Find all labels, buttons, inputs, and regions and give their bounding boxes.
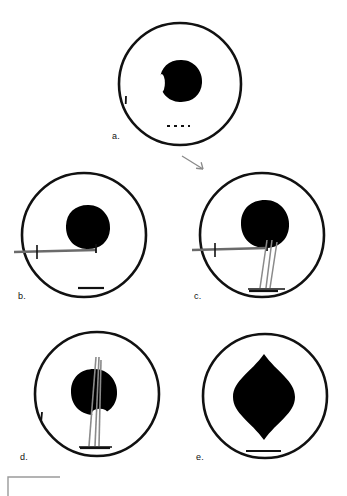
panel-label-c: c. (194, 291, 201, 301)
panel-e (203, 334, 327, 458)
figure-canvas: a.b.c.d.e. (0, 0, 347, 496)
panel-label-b: b. (18, 291, 26, 301)
panel-d-tick-0 (41, 412, 42, 420)
panel-b-mass (66, 205, 110, 249)
global-scale-bar (8, 477, 60, 496)
panel-label-e: e. (196, 452, 204, 462)
panel-a-annotation-arrow (182, 156, 203, 169)
panel-d (35, 332, 159, 456)
panel-label-a: a. (112, 131, 120, 141)
panel-a-mass (160, 60, 202, 102)
panels-layer (14, 23, 327, 458)
panel-c-horizontal-needle (192, 248, 267, 250)
panel-a (119, 23, 241, 169)
panel-b-horizontal-needle (14, 250, 96, 252)
panel-a-annotation-arrow-head-a (196, 168, 203, 169)
panel-e-mass (233, 354, 295, 440)
panel-c (192, 173, 324, 297)
panel-a-mass-notch (158, 74, 164, 92)
panel-c-mass (241, 200, 289, 248)
panel-label-d: d. (20, 452, 28, 462)
global-scale-layer (8, 477, 60, 496)
panel-b (14, 173, 146, 297)
panel-series-diagram (0, 0, 347, 496)
